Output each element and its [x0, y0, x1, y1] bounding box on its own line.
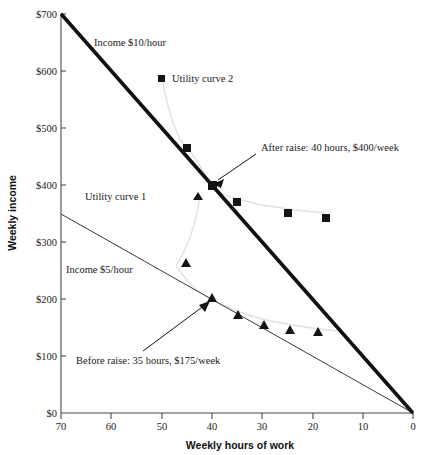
data-point-square	[284, 209, 292, 217]
annotation-before-raise: Before raise: 35 hours, $175/week	[76, 301, 221, 366]
data-point-triangle	[259, 320, 269, 329]
x-tick-label-30: 30	[257, 421, 268, 432]
y-tick-label-200: $200	[36, 294, 57, 305]
income-10-per-hour-label: Income $10/hour	[94, 37, 167, 48]
annotation-before-raise-text: Before raise: 35 hours, $175/week	[76, 355, 221, 366]
data-point-triangle	[233, 310, 243, 319]
annotation-after-raise-leader	[218, 154, 256, 180]
y-tick-label-100: $100	[36, 351, 57, 362]
economics-labor-supply-chart: $700 $600 $500 $400 $300 $200 $100 $0 70…	[0, 0, 431, 455]
y-tick-label-300: $300	[36, 237, 57, 248]
y-axis-title: Weekly income	[6, 175, 18, 251]
legend-square-icon	[158, 75, 165, 82]
data-point-square	[233, 198, 241, 206]
data-point-triangle	[181, 258, 191, 267]
income-5-per-hour-label: Income $5/hour	[66, 264, 133, 275]
y-tick-label-0: $0	[47, 408, 58, 419]
annotation-after-raise: After raise: 40 hours, $400/week	[213, 142, 400, 188]
x-tick-label-70: 70	[56, 421, 67, 432]
x-axis-title: Weekly hours of work	[186, 439, 294, 451]
data-point-triangle	[285, 325, 295, 334]
legend-label-utility-curve-1: Utility curve 1	[85, 191, 146, 202]
utility-curve-1-spline	[176, 196, 338, 331]
annotation-before-raise-leader	[143, 305, 205, 351]
y-tick-label-700: $700	[36, 9, 57, 20]
legend-triangle-icon	[193, 192, 203, 200]
x-tick-label-0: 0	[410, 421, 415, 432]
legend-utility-curve-1: Utility curve 1	[85, 191, 203, 202]
utility-curve-1-markers	[181, 258, 323, 336]
x-tick-label-10: 10	[358, 421, 369, 432]
chart-container: $700 $600 $500 $400 $300 $200 $100 $0 70…	[0, 0, 431, 455]
y-tick-label-600: $600	[36, 66, 57, 77]
legend-label-utility-curve-2: Utility curve 2	[172, 73, 233, 84]
y-tick-label-400: $400	[36, 180, 57, 191]
x-tick-label-50: 50	[157, 421, 168, 432]
legend-utility-curve-2: Utility curve 2	[158, 73, 233, 84]
income-10-per-hour-line	[62, 15, 412, 412]
y-tick-label-500: $500	[36, 123, 57, 134]
utility-curve-2-markers	[183, 144, 330, 222]
data-point-square	[322, 214, 330, 222]
data-point-square	[183, 144, 191, 152]
data-point-square	[208, 181, 217, 190]
arrowhead-icon	[199, 301, 210, 312]
x-tick-label-60: 60	[106, 421, 117, 432]
annotation-after-raise-text: After raise: 40 hours, $400/week	[261, 142, 400, 153]
x-tick-label-20: 20	[308, 421, 319, 432]
x-tick-label-40: 40	[207, 421, 218, 432]
x-tick-group: 70 60 50 40 30 20 10 0	[56, 413, 416, 432]
